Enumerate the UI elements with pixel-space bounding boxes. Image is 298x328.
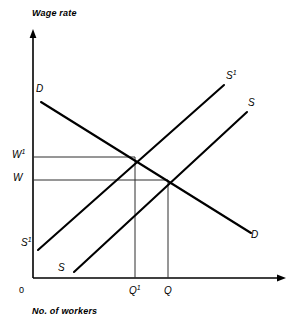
supply-shifted-label-top: S1 <box>226 70 237 81</box>
wage-high-label: W1 <box>12 149 25 160</box>
wage-rate-supply-demand-figure: Wage rate No. of workers D D S1 S1 S S W… <box>0 0 298 328</box>
origin-label: 0 <box>19 285 24 295</box>
demand-curve <box>41 102 251 233</box>
quantity-low-label: Q1 <box>129 285 141 296</box>
demand-curve-label-bottom: D <box>251 229 258 240</box>
quantity-high-label: Q <box>164 285 172 296</box>
quantity-low-label-superscript: 1 <box>137 284 141 291</box>
supply-curve-label-top: S <box>248 97 255 108</box>
supply-shifted-label-top-base: S <box>226 70 233 81</box>
wage-low-label: W <box>13 172 22 183</box>
x-axis-title: No. of workers <box>32 306 97 316</box>
x-axis-arrowhead <box>277 275 286 282</box>
quantity-low-label-base: Q <box>129 285 137 296</box>
supply-shifted-label-top-superscript: 1 <box>233 69 237 76</box>
wage-high-label-superscript: 1 <box>21 148 25 155</box>
supply-shifted-label-bottom-superscript: 1 <box>28 236 32 243</box>
supply-shifted-curve <box>38 85 224 250</box>
demand-curve-label-top: D <box>36 83 43 94</box>
guide-lines-group <box>33 157 168 278</box>
curves-group <box>38 85 251 272</box>
supply-shifted-label-bottom-base: S <box>21 237 28 248</box>
y-axis-title: Wage rate <box>32 8 77 18</box>
supply-shifted-label-bottom: S1 <box>21 237 32 248</box>
supply-curve-label-bottom: S <box>58 262 65 273</box>
chart-canvas <box>0 0 298 328</box>
supply-curve <box>74 112 247 272</box>
axes-group <box>30 29 286 281</box>
y-axis-arrowhead <box>30 29 37 38</box>
